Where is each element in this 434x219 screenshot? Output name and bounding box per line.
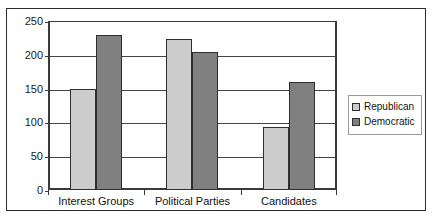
bars-layer [48,21,337,190]
bar-democratic-candidates[interactable] [289,82,315,190]
bar-group-political-parties [144,21,240,190]
x-category-label-political-parties: Political Parties [144,195,240,208]
y-tick-label-250: 250 [9,16,43,27]
y-tick-label-150: 150 [9,84,43,95]
x-axis-category-labels: Interest Groups Political Parties Candid… [48,195,337,211]
legend-item-republican[interactable]: Republican [352,100,418,114]
x-category-label-candidates: Candidates [241,195,337,208]
y-tick-label-200: 200 [9,50,43,61]
chart-outer-border: 250 200 150 100 50 0 [6,8,426,211]
legend-swatch-democratic-icon [352,118,360,126]
page-scan-artifact-text: · · · ·· · ·· · · ··· [0,0,434,7]
chart-legend: Republican Democratic [348,95,422,135]
y-axis-labels: 250 200 150 100 50 0 [7,21,43,190]
bar-republican-political-parties[interactable] [166,39,192,190]
legend-swatch-republican-icon [352,103,360,111]
y-tick-label-50: 50 [9,151,43,162]
legend-label-democratic: Democratic [364,117,415,127]
bar-republican-interest-groups[interactable] [70,89,96,190]
y-tick-label-100: 100 [9,117,43,128]
bar-democratic-political-parties[interactable] [192,52,218,190]
bar-democratic-interest-groups[interactable] [96,35,122,190]
y-tick-label-0: 0 [9,185,43,196]
scan-artifact-line: · · · ·· · ·· · · ··· [0,0,434,4]
x-category-label-interest-groups: Interest Groups [48,195,144,208]
bar-group-candidates [241,21,337,190]
chart-figure: · · · ·· · ·· · · ··· 250 200 150 100 50… [0,0,434,219]
bar-group-interest-groups [48,21,144,190]
bar-republican-candidates[interactable] [263,127,289,190]
legend-item-democratic[interactable]: Democratic [352,115,418,129]
legend-label-republican: Republican [364,102,414,112]
